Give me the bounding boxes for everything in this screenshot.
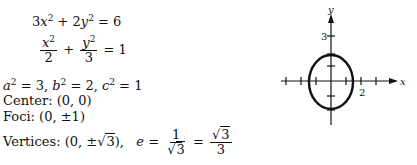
x-tick-label: 2 bbox=[359, 86, 365, 100]
y-tick-label: 3 bbox=[321, 30, 327, 44]
x-axis-arrow-icon bbox=[389, 78, 398, 84]
x-axis-label: x bbox=[400, 75, 406, 89]
ellipse-graph bbox=[0, 0, 417, 165]
y-axis-label: y bbox=[328, 3, 334, 17]
